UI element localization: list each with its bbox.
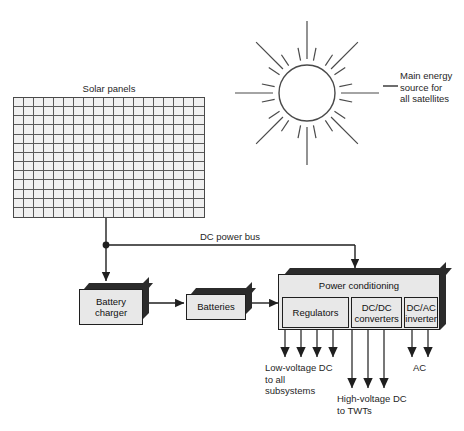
box-side-face — [143, 277, 149, 319]
sun-ray-short — [262, 84, 275, 87]
power-conditioning-label: Power conditioning — [279, 275, 439, 296]
battery-charger-box: Battery charger — [79, 283, 155, 325]
high-voltage-dc-label: High-voltage DC to TWTs — [337, 393, 437, 416]
sun-disc — [279, 65, 335, 121]
sun-icon — [235, 21, 379, 165]
sun-ray-short — [269, 67, 280, 74]
sun-ray-short — [334, 67, 345, 74]
power-conditioning-box: Power conditioning Regulators DC/DC conv… — [278, 268, 440, 330]
battery-charger-label: Battery charger — [79, 289, 143, 325]
low-voltage-dc-label: Low-voltage DC to all subsystems — [265, 362, 360, 397]
sun-ray-short — [298, 48, 301, 61]
sun-ray-short — [313, 48, 316, 61]
diagram-canvas: Solar panels — [0, 0, 464, 431]
box-side-face — [440, 262, 446, 330]
sun-ray-short — [325, 120, 332, 131]
sun-ray-short — [262, 99, 275, 102]
dcdc-converters-block: DC/DC converters — [351, 297, 402, 328]
sun-ray-short — [281, 55, 288, 66]
batteries-label: Batteries — [186, 294, 246, 320]
ac-arrows — [412, 330, 428, 357]
diagram-vectors — [0, 0, 464, 431]
dcac-inverter-block: DC/AC inverter — [404, 297, 438, 328]
sun-ray-short — [325, 55, 332, 66]
sun-ray-long — [331, 117, 358, 144]
sun-ray-short — [334, 111, 345, 118]
sun-ray-short — [339, 99, 352, 102]
sun-ray-short — [298, 125, 301, 138]
sun-note-label: Main energy source for all satellites — [400, 70, 464, 105]
sun-ray-long — [256, 42, 283, 69]
dc-power-bus-label: DC power bus — [160, 231, 300, 243]
sun-ray-long — [256, 117, 283, 144]
sun-ray-long — [331, 42, 358, 69]
power-conditioning-subblocks: Regulators DC/DC converters DC/AC invert… — [282, 297, 438, 328]
sun-ray-short — [281, 120, 288, 131]
sun-ray-short — [339, 84, 352, 87]
batteries-box: Batteries — [186, 288, 258, 320]
low-voltage-dc-arrows — [285, 330, 333, 357]
ac-label: AC — [413, 362, 443, 374]
regulators-block: Regulators — [282, 297, 349, 328]
sun-ray-short — [313, 125, 316, 138]
sun-ray-short — [269, 111, 280, 118]
box-side-face — [246, 282, 252, 314]
power-conditioning-face: Power conditioning Regulators DC/DC conv… — [278, 274, 440, 330]
